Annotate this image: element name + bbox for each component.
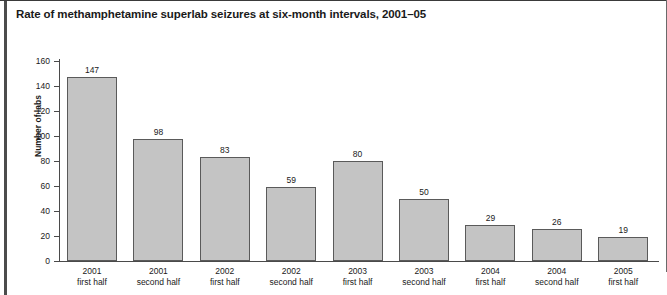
bar (266, 187, 316, 261)
y-tick-mark (54, 261, 59, 262)
bar-value-label: 59 (266, 175, 316, 185)
bar-value-label: 50 (399, 187, 449, 197)
bar-value-label: 98 (133, 127, 183, 137)
bar-value-label: 26 (532, 217, 582, 227)
y-axis-title: Number of labs (33, 95, 43, 157)
x-category-label-line: 2003 (389, 266, 459, 277)
x-category-label-line: first half (190, 277, 260, 288)
y-tick-label: 60 (22, 181, 50, 191)
plot-area: Number of labs 1479883598050292619 (59, 61, 659, 261)
x-category-label: 2001second half (123, 266, 193, 288)
x-category-label-line: second half (256, 277, 326, 288)
x-category-label-line: first half (588, 277, 658, 288)
x-category-label: 2004second half (522, 266, 592, 288)
x-category-label-line: 2004 (522, 266, 592, 277)
y-tick-label: 40 (22, 206, 50, 216)
chart-title: Rate of methamphetamine superlab seizure… (16, 8, 426, 20)
x-category-label-line: 2001 (123, 266, 193, 277)
x-category-label-line: first half (323, 277, 393, 288)
y-tick-label: 80 (22, 156, 50, 166)
x-category-label: 2001first half (57, 266, 127, 288)
x-axis-line (59, 261, 659, 262)
bar (133, 139, 183, 262)
x-category-label-line: second half (522, 277, 592, 288)
x-category-label-line: second half (123, 277, 193, 288)
bar (465, 225, 515, 261)
x-category-label-line: 2003 (323, 266, 393, 277)
x-category-label: 2004first half (455, 266, 525, 288)
x-category-label: 2002second half (256, 266, 326, 288)
x-category-label: 2005first half (588, 266, 658, 288)
chart-figure: Rate of methamphetamine superlab seizure… (0, 0, 667, 295)
y-tick-label: 140 (22, 81, 50, 91)
x-category-label-line: 2002 (190, 266, 260, 277)
bar-value-label: 80 (333, 149, 383, 159)
x-category-label: 2003second half (389, 266, 459, 288)
bar-value-label: 147 (67, 65, 117, 75)
bar (532, 229, 582, 262)
bar (399, 199, 449, 262)
x-category-label-line: 2002 (256, 266, 326, 277)
x-category-label-line: 2001 (57, 266, 127, 277)
y-tick-label: 0 (22, 256, 50, 266)
x-category-label-line: 2004 (455, 266, 525, 277)
x-category-label-line: second half (389, 277, 459, 288)
bar (200, 157, 250, 261)
bar (598, 237, 648, 261)
figure-top-border (0, 0, 667, 1)
bar-value-label: 19 (598, 225, 648, 235)
figure-left-border (4, 1, 7, 295)
bar (67, 77, 117, 261)
x-category-label: 2003first half (323, 266, 393, 288)
x-category-label-line: 2005 (588, 266, 658, 277)
y-tick-label: 160 (22, 56, 50, 66)
x-category-label: 2002first half (190, 266, 260, 288)
bar-value-label: 29 (465, 213, 515, 223)
x-category-label-line: first half (57, 277, 127, 288)
bar-value-label: 83 (200, 145, 250, 155)
y-tick-label: 20 (22, 231, 50, 241)
bar (333, 161, 383, 261)
x-category-label-line: first half (455, 277, 525, 288)
